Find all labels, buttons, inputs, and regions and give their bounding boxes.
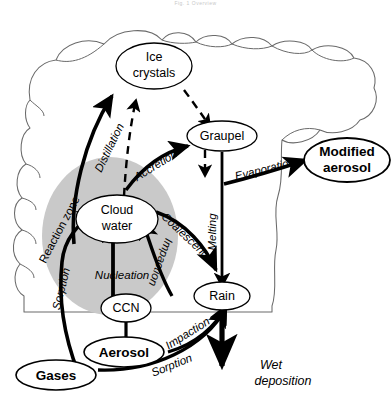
node-modified-aerosol-line2: aerosol [323, 160, 371, 175]
label-wet-deposition-line1: Wet [260, 358, 283, 372]
node-graupel-label: Graupel [200, 129, 244, 143]
figure-page: Fig. 1 Overview [0, 0, 391, 400]
node-modified-aerosol[interactable]: Modified aerosol [304, 138, 390, 182]
label-wet-deposition-line2: deposition [255, 374, 312, 388]
node-cloud-water-line1: Cloud [101, 203, 134, 217]
node-ccn-label: CCN [112, 301, 139, 315]
node-ice-crystals[interactable]: Ice crystals [116, 43, 192, 89]
node-ccn[interactable]: CCN [101, 294, 151, 322]
node-cloud-water-line2: water [101, 219, 133, 233]
node-ice-crystals-line2: crystals [133, 66, 175, 80]
node-gases[interactable]: Gases [16, 360, 96, 390]
node-aerosol-label: Aerosol [99, 345, 149, 360]
label-nucleation: Nucleation [95, 269, 149, 281]
node-cloud-water[interactable]: Cloud water [76, 195, 158, 243]
cloud-process-diagram: Ice crystals Graupel Cloud water Rain CC… [0, 0, 391, 400]
label-melting: Melting [206, 213, 218, 251]
node-ice-crystals-line1: Ice [146, 50, 163, 64]
node-gases-label: Gases [36, 368, 77, 383]
node-modified-aerosol-line1: Modified [319, 144, 375, 159]
node-rain[interactable]: Rain [194, 282, 250, 310]
node-rain-label: Rain [209, 289, 235, 303]
node-aerosol[interactable]: Aerosol [84, 337, 164, 367]
node-graupel[interactable]: Graupel [187, 121, 257, 151]
